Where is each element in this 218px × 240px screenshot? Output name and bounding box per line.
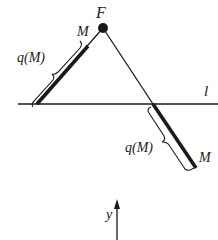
left-length-label: q(M) [17,50,45,66]
focus-point [98,23,108,33]
right-ray [103,28,153,104]
right-point-label: M [198,150,212,165]
diagram-canvas: l F M q(M) M q(M) y [0,0,218,240]
right-segment-thick [153,104,196,168]
y-axis-arrowhead-icon [114,199,120,209]
right-length-label: q(M) [125,140,153,156]
line-l-label: l [204,83,208,99]
right-brace [148,107,194,170]
left-point-label: M [76,24,90,39]
y-axis-label: y [104,207,113,222]
focus-label: F [95,4,106,21]
